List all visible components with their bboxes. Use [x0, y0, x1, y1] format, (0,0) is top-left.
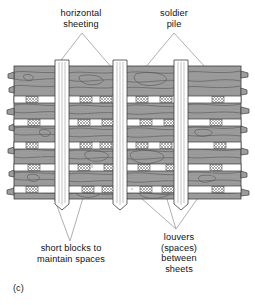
label-short-blocks: short blocks to maintain spaces [10, 243, 132, 264]
plank-end-left [7, 72, 14, 195]
soldier-pile-2 [113, 60, 127, 210]
sheeting-bay-4 [186, 66, 249, 199]
shoring-diagram-figure: horizontal sheeting soldier pile short b… [0, 0, 255, 305]
label-soldier-pile: soldier pile [134, 8, 214, 29]
plank-end-right [241, 71, 249, 196]
label-horizontal-sheeting: horizontal sheeting [34, 8, 128, 29]
label-louvers: louvers (spaces) between sheets [139, 232, 219, 274]
soldier-pile-3 [174, 60, 188, 210]
soldier-pile-1 [55, 60, 69, 210]
figure-caption: (c) [13, 283, 53, 293]
